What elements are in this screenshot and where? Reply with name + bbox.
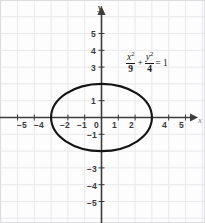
- term1-numerator: x2: [126, 53, 135, 64]
- grid-and-axes: [0, 0, 205, 223]
- x-tick-neg5: −5: [17, 121, 27, 130]
- y-tick-neg4: −4: [87, 182, 97, 191]
- x-tick-0: 0: [94, 121, 99, 130]
- x-tick-neg1: −1: [77, 121, 87, 130]
- equation-term-1: x2 9: [126, 53, 135, 74]
- y-tick-neg5: −5: [87, 199, 97, 208]
- x-tick-neg2: −2: [60, 121, 70, 130]
- equation-equals: = 1: [154, 59, 167, 69]
- x-tick-5: 5: [179, 121, 184, 130]
- x-tick-4: 4: [162, 121, 167, 130]
- equation-operator: +: [135, 59, 144, 69]
- term2-numerator: y2: [145, 53, 154, 64]
- x-axis-label: x: [198, 117, 202, 125]
- y-tick-neg1: −1: [87, 131, 97, 140]
- term2-denominator: 4: [147, 64, 152, 74]
- y-tick-4: 4: [91, 47, 96, 56]
- y-tick-neg3: −3: [87, 165, 97, 174]
- y-tick-5: 5: [91, 30, 96, 39]
- term1-exponent: 2: [131, 50, 134, 57]
- x-tick-2: 2: [129, 121, 134, 130]
- term1-denominator: 9: [128, 64, 133, 74]
- y-axis-label: y: [98, 3, 102, 12]
- equation-term-2: y2 4: [145, 53, 154, 74]
- ellipse-graph-figure: y x −5−4−2−101245 5431−1−3−4−5 x2 9 + y2…: [0, 0, 205, 223]
- term2-exponent: 2: [150, 50, 153, 57]
- plot-area: y x −5−4−2−101245 5431−1−3−4−5 x2 9 + y2…: [0, 0, 205, 223]
- y-tick-3: 3: [91, 64, 96, 73]
- equation-annotation: x2 9 + y2 4 = 1: [126, 53, 168, 74]
- x-tick-neg4: −4: [34, 121, 44, 130]
- x-tick-1: 1: [112, 121, 117, 130]
- y-tick-1: 1: [91, 97, 96, 106]
